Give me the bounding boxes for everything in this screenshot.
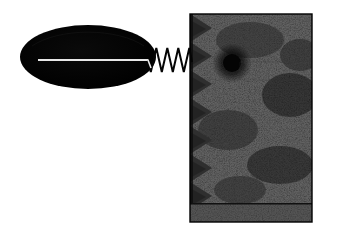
wall-block (190, 14, 320, 222)
diagram-canvas: mass-spring-wall schematic ellipse mass … (0, 0, 343, 232)
diagram-svg (0, 0, 343, 232)
block-bottom-band (190, 203, 312, 222)
ellipse-mass (20, 25, 156, 89)
embedded-circle (212, 43, 252, 83)
